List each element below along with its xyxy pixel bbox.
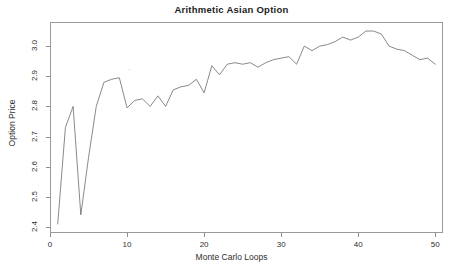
y-tick-mark [46,167,50,168]
x-tick-mark [127,233,128,237]
x-axis-label: Monte Carlo Loops [0,252,463,262]
x-tick-mark [50,233,51,237]
x-tick-mark [204,233,205,237]
y-tick-mark [46,227,50,228]
x-tick-label: 20 [191,240,217,249]
series-polyline [58,31,436,224]
y-tick-mark [46,197,50,198]
x-tick-label: 30 [268,240,294,249]
y-tick-mark [46,106,50,107]
y-tick-label: 2.8 [30,94,39,118]
x-tick-label: 50 [422,240,448,249]
chart-title: Arithmetic Asian Option [0,4,463,15]
y-tick-label: 2.4 [30,214,39,238]
y-tick-mark [46,137,50,138]
y-tick-label: 2.7 [30,124,39,148]
y-tick-label: 2.6 [30,154,39,178]
chart-figure: Arithmetic Asian Option 01020304050 2.42… [0,0,463,266]
x-tick-mark [435,233,436,237]
x-tick-mark [281,233,282,237]
y-tick-label: 2.9 [30,64,39,88]
x-tick-label: 10 [114,240,140,249]
x-tick-label: 0 [37,240,63,249]
y-tick-label: 3.0 [30,34,39,58]
y-tick-mark [46,46,50,47]
x-tick-label: 40 [345,240,371,249]
x-tick-mark [358,233,359,237]
option-price-line-series [50,22,443,233]
plot-area [50,22,443,233]
y-tick-label: 2.5 [30,184,39,208]
y-tick-mark [46,76,50,77]
y-axis-label: Option Price [7,83,17,163]
